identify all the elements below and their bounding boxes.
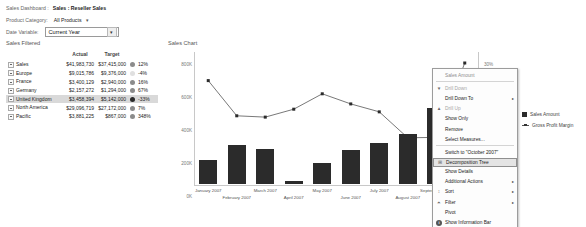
menu-item-drill-down[interactable]: ▼Drill Down [433, 83, 517, 93]
menu-separator [436, 81, 514, 82]
menu-item-show-information-bar[interactable]: iShow Information Bar [433, 217, 517, 227]
actual-cell: $41,983,730 [64, 60, 96, 69]
row-name-cell[interactable]: France [6, 77, 64, 86]
menu-item-label: Filter [445, 200, 509, 205]
expand-icon[interactable] [8, 79, 14, 85]
expand-icon[interactable] [8, 96, 14, 102]
line-data-point[interactable] [378, 110, 381, 113]
expand-icon[interactable] [8, 105, 14, 111]
legend-line-icon [522, 125, 529, 126]
product-category-value[interactable]: All Products [54, 17, 82, 23]
scorecard-body: Sales$41,983,730$37,415,00012%Europe$9,0… [6, 60, 158, 121]
menu-item-show-only[interactable]: Show Only [433, 114, 517, 124]
line-data-point[interactable] [207, 79, 210, 82]
status-cell: 7% [128, 103, 158, 112]
menu-item-select-measures[interactable]: Select Measures... [433, 134, 517, 144]
expand-icon[interactable] [8, 114, 14, 120]
line-data-point[interactable] [292, 108, 295, 111]
chart-bar[interactable] [285, 181, 303, 184]
menu-item-filter[interactable]: ⏶Filter▸ [433, 197, 517, 207]
expand-icon[interactable] [8, 62, 14, 68]
row-name-cell[interactable]: North America [6, 103, 64, 112]
target-cell: $27,172,000 [96, 103, 128, 112]
sort-icon: ↕ [433, 189, 445, 194]
row-label: Pacific [16, 113, 31, 119]
date-variable-value: Current Year [49, 29, 80, 35]
menu-item-label: Drill Down To [445, 96, 509, 101]
table-row[interactable]: United Kingdom$3,458,394$5,142,000-33% [6, 95, 158, 104]
menu-item-pivot[interactable]: Pivot [433, 207, 517, 217]
table-row[interactable]: Germany$2,157,272$1,294,00067% [6, 86, 158, 95]
table-row[interactable]: Europe$9,015,786$9,376,000-4% [6, 69, 158, 78]
menu-item-sort[interactable]: ↕Sort▸ [433, 187, 517, 197]
status-cell: 67% [128, 86, 158, 95]
row-name-cell[interactable]: Sales [6, 60, 64, 69]
table-row[interactable]: France$3,400,129$2,940,00016% [6, 77, 158, 86]
variance-percent: 7% [138, 105, 145, 111]
info-icon: i [436, 220, 442, 226]
line-data-point[interactable] [321, 92, 324, 95]
row-name-cell[interactable]: United Kingdom [6, 95, 64, 104]
line-data-point[interactable] [463, 62, 466, 65]
table-row[interactable]: Sales$41,983,730$37,415,00012% [6, 60, 158, 69]
line-data-point[interactable] [349, 102, 352, 105]
breadcrumb-value[interactable]: Sales : Reseller Sales [53, 5, 106, 11]
target-cell: $9,376,000 [96, 69, 128, 78]
menu-item-show-details[interactable]: Show Details [433, 167, 517, 177]
row-label: Germany [16, 87, 37, 93]
table-row[interactable]: Pacific$3,881,225$867,000348% [6, 112, 158, 121]
chart-bar[interactable] [228, 145, 246, 184]
dashboard-header: Sales Dashboard : Sales : Reseller Sales… [6, 2, 336, 38]
table-row[interactable]: North America$29,096,719$27,172,0007% [6, 103, 158, 112]
tree-icon: ⊞ [434, 160, 446, 165]
target-cell: $5,142,000 [96, 95, 128, 104]
chart-bar[interactable] [256, 149, 274, 184]
row-name-cell[interactable]: Germany [6, 86, 64, 95]
status-indicator-icon [130, 106, 135, 111]
expand-icon[interactable] [8, 70, 14, 76]
menu-item-decomposition-tree[interactable]: ⊞Decomposition Tree [433, 158, 517, 167]
expand-icon[interactable] [8, 88, 14, 94]
chevron-down-icon[interactable]: ▾ [107, 27, 117, 37]
menu-item-label: Show Only [445, 116, 514, 121]
chart-bar[interactable] [342, 150, 360, 184]
column-header-actual: Actual [64, 51, 96, 60]
menu-item-drill-down-to[interactable]: Drill Down To▸ [433, 93, 517, 103]
row-label: Sales [16, 61, 29, 67]
menu-item-label: Drill Down [445, 86, 514, 91]
x-axis-tick-label: August 2007 [395, 195, 420, 200]
chart-bar[interactable] [199, 160, 217, 184]
row-name-cell[interactable]: Europe [6, 69, 64, 78]
dashboard-page: Sales Dashboard : Sales : Reseller Sales… [0, 0, 586, 227]
line-data-point[interactable] [264, 116, 267, 119]
chart-bar[interactable] [313, 163, 331, 184]
line-data-point[interactable] [235, 114, 238, 117]
chevron-down-icon[interactable]: ▾ [86, 18, 89, 23]
x-axis-tick-label: April 2007 [284, 195, 304, 200]
status-cell: 12% [128, 60, 158, 69]
column-header-target: Target [96, 51, 128, 60]
menu-item-switch-to-october-2007[interactable]: Switch to "October 2007" [433, 147, 517, 157]
menu-item-remove[interactable]: Remove [433, 124, 517, 134]
column-header-status [128, 51, 158, 60]
target-cell: $867,000 [96, 112, 128, 121]
chart-bar[interactable] [370, 143, 388, 184]
menu-item-label: Drill Up [445, 106, 514, 111]
submenu-arrow-icon: ▸ [509, 96, 514, 101]
context-menu[interactable]: Sales Amount▼Drill DownDrill Down To▸▲Dr… [432, 68, 518, 227]
legend-item[interactable]: Gross Profit Margin [522, 123, 573, 128]
table-header-row: Actual Target [6, 51, 158, 60]
legend-item[interactable]: Sales Amount [522, 112, 573, 117]
date-variable-select[interactable]: Current Year ▾ [45, 27, 119, 37]
submenu-arrow-icon: ▸ [509, 189, 514, 194]
menu-item-label: Pivot [445, 210, 514, 215]
chart-bar[interactable] [399, 134, 417, 184]
menu-item-drill-up[interactable]: ▲Drill Up [433, 104, 517, 114]
status-cell: 348% [128, 112, 158, 121]
row-name-cell[interactable]: Pacific [6, 112, 64, 121]
row-label: France [16, 78, 32, 84]
menu-item-additional-actions[interactable]: Additional Actions▸ [433, 177, 517, 187]
menu-item-label: Sort [445, 189, 509, 194]
legend-label: Gross Profit Margin [532, 123, 573, 128]
y-axis-tick-label: 400K [181, 128, 192, 133]
